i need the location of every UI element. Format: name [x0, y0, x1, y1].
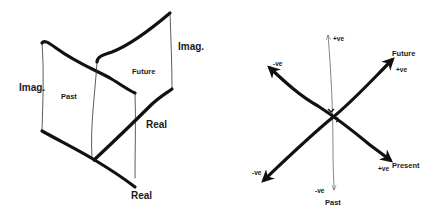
fold-line [92, 62, 97, 158]
past-real-axis [42, 131, 135, 187]
present-axis-label: Present [392, 161, 420, 170]
past-axis-label: Past [325, 198, 341, 207]
future-pos-label: +ve [396, 66, 407, 73]
imag-right-label: Imag. [178, 41, 204, 52]
diagram-canvas: Imag. Past Future Imag. Real Real +ve Fu… [0, 0, 434, 217]
future-label: Future [132, 67, 155, 76]
time-axes-diagram: +ve Future +ve -ve -ve +ve Present -ve P… [252, 35, 420, 207]
top-pos-label: +ve [333, 35, 344, 42]
future-plane-imag-edge [170, 13, 172, 89]
bottom-neg-label: -ve [315, 187, 325, 194]
complex-planes-diagram: Imag. Past Future Imag. Real Real [19, 13, 204, 201]
real-lower-label: Real [131, 190, 152, 201]
present-pos-label: +ve [378, 165, 389, 172]
lower-left-neg-label: -ve [252, 169, 262, 176]
future-axis-label: Future [392, 49, 415, 58]
upper-left-neg-label: -ve [273, 60, 283, 67]
future-plane-top-edge [97, 13, 170, 62]
past-label: Past [61, 92, 77, 101]
real-upper-label: Real [146, 119, 167, 130]
imag-left-label: Imag. [19, 82, 45, 93]
